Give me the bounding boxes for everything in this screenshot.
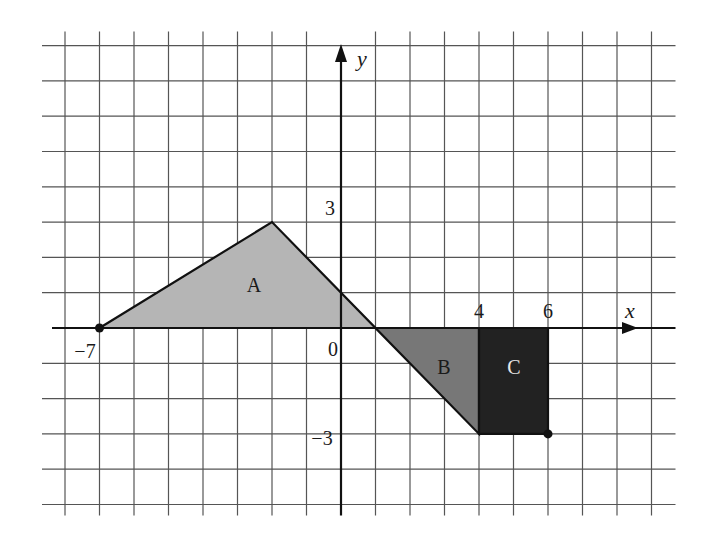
y-axis-arrow-icon	[335, 44, 347, 62]
grid-lines	[42, 32, 676, 516]
point-6-neg3	[544, 429, 553, 438]
region-c	[479, 328, 548, 434]
x-axis-arrow-icon	[622, 322, 638, 334]
coordinate-plane: A B C x y 0 −7 4 6 3 −3	[0, 0, 708, 538]
y-axis-label: y	[355, 46, 367, 71]
region-c-label: C	[507, 356, 520, 378]
y-tick-label-neg3: −3	[311, 427, 332, 449]
y-tick-label-3: 3	[325, 197, 335, 219]
region-b	[376, 328, 480, 434]
x-axis-label: x	[624, 298, 635, 323]
origin-label: 0	[328, 338, 338, 360]
region-a-label: A	[247, 274, 262, 296]
x-tick-label-6: 6	[543, 300, 553, 322]
region-b-label: B	[437, 356, 450, 378]
x-tick-label-4: 4	[474, 300, 484, 322]
x-tick-label-neg7: −7	[74, 340, 95, 362]
point-neg7-0	[95, 324, 104, 333]
